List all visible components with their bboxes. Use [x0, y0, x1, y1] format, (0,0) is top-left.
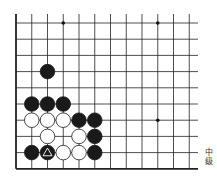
black-stone[interactable]: [56, 97, 71, 112]
black-stone[interactable]: [87, 113, 102, 128]
caption-line-1: 中: [205, 148, 215, 157]
black-stone[interactable]: [24, 97, 39, 112]
star-point: [61, 21, 65, 25]
caption-line-2: 级: [205, 157, 215, 166]
star-point: [156, 118, 160, 122]
go-board[interactable]: [0, 0, 217, 185]
black-stone[interactable]: [87, 145, 102, 160]
white-stone[interactable]: [40, 113, 55, 128]
white-stone[interactable]: [72, 145, 87, 160]
white-stone[interactable]: [24, 113, 39, 128]
white-stone[interactable]: [40, 129, 55, 144]
star-point: [156, 21, 160, 25]
white-stone[interactable]: [56, 113, 71, 128]
level-caption: 中 级: [205, 148, 215, 166]
black-stone[interactable]: [40, 97, 55, 112]
white-stone[interactable]: [56, 145, 71, 160]
white-stone[interactable]: [72, 129, 87, 144]
black-stone[interactable]: [40, 64, 55, 79]
black-stone[interactable]: [24, 145, 39, 160]
black-stone[interactable]: [72, 113, 87, 128]
black-stone[interactable]: [87, 129, 102, 144]
